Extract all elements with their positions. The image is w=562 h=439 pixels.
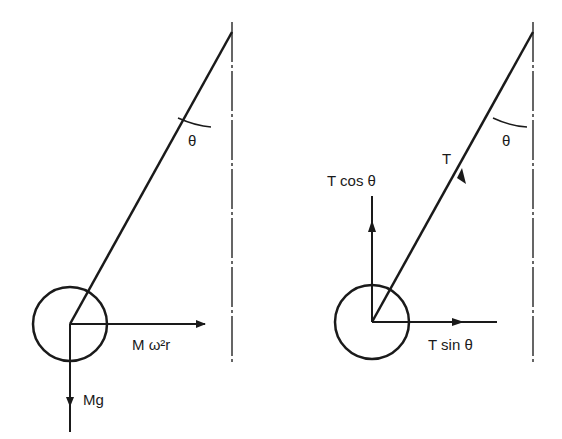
horizontal-component-label: T sin θ: [428, 336, 473, 353]
angle-label: θ: [502, 132, 510, 149]
weight-arrowhead: [66, 397, 74, 407]
tension-string: [372, 32, 533, 322]
weight-label: Mg: [83, 391, 104, 408]
angle-label: θ: [188, 132, 196, 149]
vertical-component-arrowhead: [368, 220, 376, 232]
horizontal-component-arrowhead: [452, 318, 464, 326]
angle-arc: [493, 118, 527, 127]
centripetal-force-label: M ω²r: [132, 336, 170, 353]
left-diagram: θ M ω²r Mg: [33, 22, 232, 432]
tension-arrowhead: [457, 168, 466, 184]
vertical-component-label: T cos θ: [327, 172, 376, 189]
pendulum-force-diagrams: θ M ω²r Mg θ T T cos θ T sin θ: [0, 0, 562, 439]
tension-label: T: [442, 150, 451, 167]
string: [70, 32, 232, 324]
right-diagram: θ T T cos θ T sin θ: [327, 22, 533, 365]
